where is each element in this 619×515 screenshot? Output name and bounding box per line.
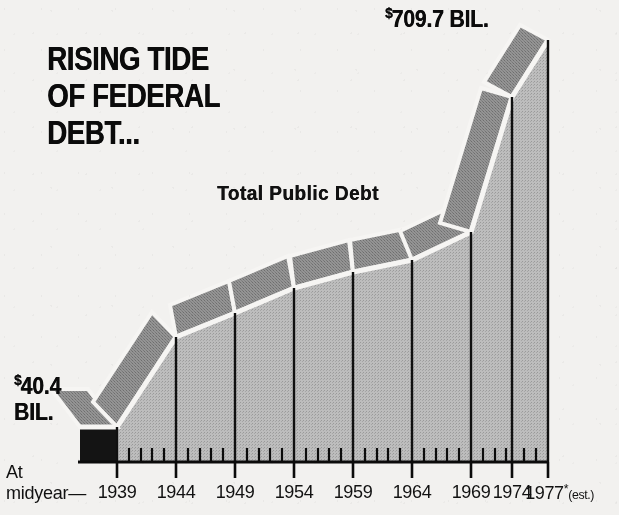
chart-root: RISING TIDE OF FEDERAL DEBT... Total Pub… — [0, 0, 619, 515]
x-axis-tick-labels: 1939 1944 1949 1954 1959 1964 1969 1974 … — [0, 481, 619, 515]
start-value-number: 40.4 — [21, 373, 61, 399]
year-label-1959: 1959 — [334, 481, 373, 503]
estimate-note: (est.) — [568, 487, 594, 502]
page-title: RISING TIDE OF FEDERAL DEBT... — [47, 40, 220, 151]
year-label-1944: 1944 — [157, 481, 196, 503]
start-value-label: $40.4 BIL. — [14, 367, 61, 425]
year-label-1969: 1969 — [452, 481, 491, 503]
year-label-1954: 1954 — [275, 481, 314, 503]
year-label-1964: 1964 — [393, 481, 432, 503]
year-label-1949: 1949 — [216, 481, 255, 503]
start-value-line2: BIL. — [14, 399, 61, 425]
peak-value-text: 709.7 BIL. — [392, 6, 489, 32]
peak-value-label: $709.7 BIL. — [385, 4, 489, 33]
x-axis-major-ticks — [117, 462, 548, 478]
start-value-line1: $40.4 — [14, 367, 61, 399]
series-label: Total Public Debt — [217, 182, 379, 205]
year-label-1977-est: 1977*(est.) — [525, 481, 594, 504]
year-label-1939: 1939 — [98, 481, 137, 503]
year-label-1977-text: 1977 — [525, 482, 564, 503]
